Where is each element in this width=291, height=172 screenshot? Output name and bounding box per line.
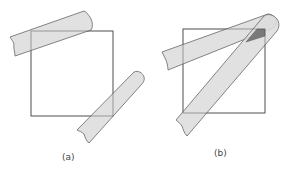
tape-strip-a-top xyxy=(10,11,92,56)
panel-b xyxy=(162,14,279,136)
panel-label-a: (a) xyxy=(62,152,75,162)
panel-label-b: (b) xyxy=(214,148,227,158)
diagram-figure xyxy=(0,0,291,172)
panel-a xyxy=(10,11,144,143)
tape-strip-a-bottom xyxy=(77,71,144,143)
